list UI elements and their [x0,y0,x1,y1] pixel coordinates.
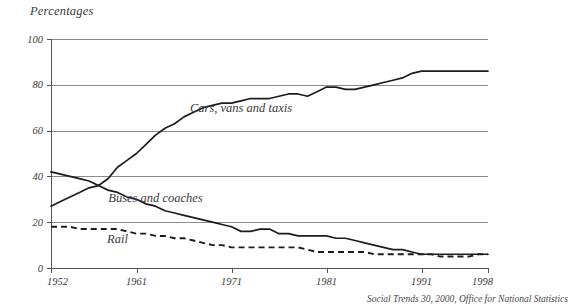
source-attribution: Social Trends 30, 2000, Office for Natio… [367,294,568,304]
y-tick-labels: 020406080100 [27,34,44,274]
y-tick-label-0: 0 [38,263,44,274]
x-tick-label-1961: 1961 [126,276,147,287]
x-tick-labels: 195219611971198119911998 [47,276,494,287]
x-tick-label-1952: 1952 [47,276,69,287]
annotation-buses-and-coaches: Buses and coaches [108,191,203,205]
y-axis [47,39,52,269]
x-axis [51,268,489,273]
y-tick-label-40: 40 [33,171,44,182]
series-annotations: Cars, vans and taxisBuses and coachesRai… [106,101,292,246]
x-tick-label-1971: 1971 [221,276,242,287]
y-tick-label-20: 20 [33,217,44,228]
y-tick-label-80: 80 [33,79,44,90]
y-tick-label-100: 100 [27,34,44,45]
x-tick-label-1991: 1991 [411,276,432,287]
series-line-cars-vans-and-taxis [51,71,488,206]
x-tick-label-1998: 1998 [472,276,494,287]
line-chart-plot: 020406080100 195219611971198119911998 Ca… [0,0,576,308]
annotation-cars-vans-and-taxis: Cars, vans and taxis [190,101,292,115]
annotation-rail: Rail [106,232,128,246]
y-tick-label-60: 60 [33,125,44,136]
chart-container: Percentages 020406080100 195219611971198… [0,0,576,308]
data-series [51,71,488,256]
x-tick-label-1981: 1981 [316,276,337,287]
